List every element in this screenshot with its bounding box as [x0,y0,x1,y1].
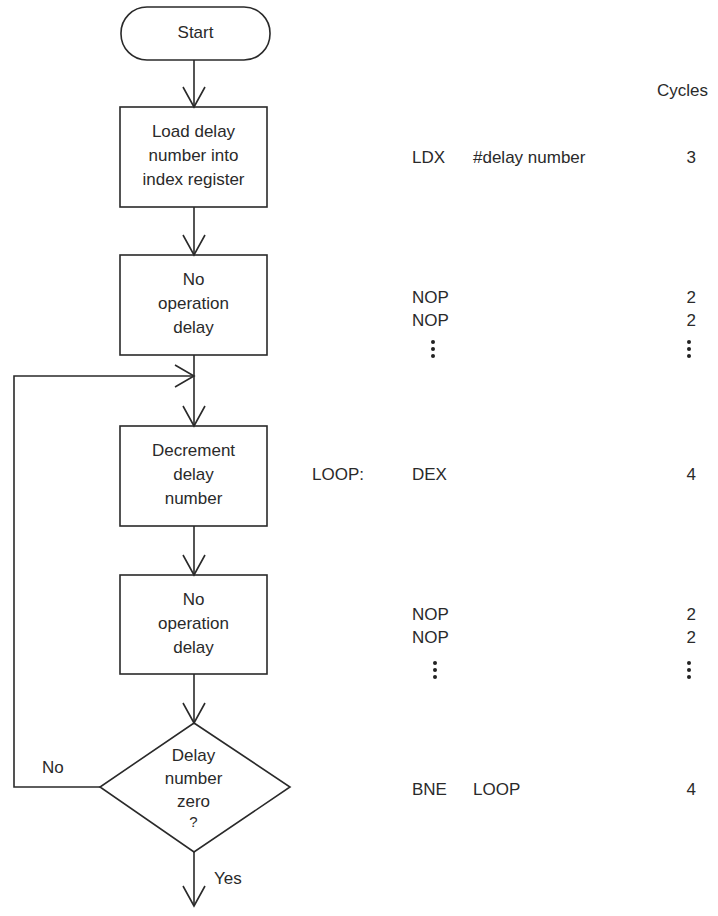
dex-op: DEX [412,464,447,485]
decision-line-1: Delay [120,744,267,767]
bne-cycles: 4 [666,779,696,800]
nop1b-op: NOP [412,310,449,331]
nop2-line-3: delay [120,636,267,660]
nop2-box: No operation delay [120,588,267,660]
start-terminal: Start [121,21,270,45]
nop1-line-2: operation [120,292,267,316]
decision-line-3: zero [120,790,267,813]
ellipsis-vertical-icon [433,661,437,682]
ldx-cycles: 3 [666,147,696,168]
load-line-3: index register [120,168,267,192]
bne-operand: LOOP [473,779,520,800]
yes-branch-label: Yes [214,868,242,889]
load-box: Load delay number into index register [120,120,267,192]
nop1a-op: NOP [412,287,449,308]
start-label: Start [178,23,214,42]
nop2b-cycles: 2 [666,627,696,648]
nop1b-cycles: 2 [666,310,696,331]
nop2-line-2: operation [120,612,267,636]
cycles-header: Cycles [657,80,708,101]
nop2a-op: NOP [412,604,449,625]
nop1-box: No operation delay [120,268,267,340]
bne-op: BNE [412,779,447,800]
nop2a-cycles: 2 [666,604,696,625]
ellipsis-vertical-icon [431,340,435,361]
dex-cycles: 4 [666,464,696,485]
dec-line-3: number [120,487,267,511]
decrement-box: Decrement delay number [120,439,267,511]
ellipsis-vertical-icon [687,661,691,682]
ldx-operand: #delay number [473,147,585,168]
load-line-1: Load delay [120,120,267,144]
decision-line-4: ? [120,813,267,831]
nop1a-cycles: 2 [666,287,696,308]
load-line-2: number into [120,144,267,168]
ldx-op: LDX [412,147,445,168]
ellipsis-vertical-icon [687,340,691,361]
nop1-line-3: delay [120,316,267,340]
loop-label: LOOP: [312,464,364,485]
decision-diamond: Delay number zero ? [120,744,267,831]
dec-line-2: delay [120,463,267,487]
nop2-line-1: No [120,588,267,612]
no-branch-label: No [42,757,64,778]
dec-line-1: Decrement [120,439,267,463]
nop1-line-1: No [120,268,267,292]
flowchart-lines [0,0,718,916]
decision-line-2: number [120,767,267,790]
nop2b-op: NOP [412,627,449,648]
